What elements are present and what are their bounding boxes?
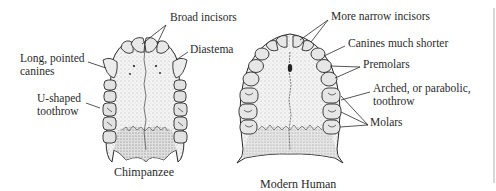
label-u-shaped-toothrow-line1: U-shaped — [37, 92, 81, 105]
chimpanzee-palate — [103, 38, 187, 162]
label-long-pointed-canines-line1: Long, pointed — [20, 52, 85, 65]
label-diastema: Diastema — [190, 43, 233, 56]
label-arched-toothrow-line1: Arched, or parabolic, — [373, 82, 471, 95]
caption-modern-human: Modern Human — [260, 178, 336, 191]
label-arched-toothrow-line2: toothrow — [373, 95, 415, 108]
label-canines-much-shorter: Canines much shorter — [348, 37, 448, 50]
chimp-left-toothrow — [103, 80, 116, 143]
cropped-page-edge — [493, 8, 495, 183]
label-long-pointed-canines-line2: canines — [20, 65, 54, 78]
label-molars: Molars — [370, 116, 403, 129]
label-broad-incisors: Broad incisors — [170, 11, 237, 24]
human-palate — [237, 34, 343, 163]
chimp-right-toothrow — [174, 80, 187, 143]
label-more-narrow-incisors: More narrow incisors — [331, 10, 430, 23]
caption-chimpanzee: Chimpanzee — [114, 166, 174, 179]
label-u-shaped-toothrow-line2: toothrow — [37, 105, 79, 118]
comparison-diagram: Broad incisors Diastema Long, pointed ca… — [0, 0, 496, 191]
label-premolars: Premolars — [363, 58, 410, 71]
